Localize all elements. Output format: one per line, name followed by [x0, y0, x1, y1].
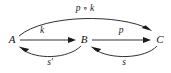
- edge-k: k: [20, 25, 76, 43]
- edge-s: s: [91, 46, 158, 67]
- node-C: C: [153, 33, 167, 47]
- edge-s-prime-arrowhead: [19, 47, 30, 53]
- edge-label-s: s: [122, 57, 126, 67]
- node-C-label: C: [156, 33, 164, 45]
- edge-label-p: p: [118, 25, 124, 35]
- node-A: A: [5, 33, 19, 47]
- commutative-diagram: p ∘ k k p s' s A: [0, 0, 171, 73]
- edge-s-prime-path: [22, 46, 81, 57]
- diagram-canvas: p ∘ k k p s' s A: [0, 0, 171, 73]
- edge-s-arrowhead: [91, 47, 102, 53]
- edge-label-s-prime: s': [47, 57, 54, 67]
- edge-k-arrowhead: [68, 37, 76, 43]
- edge-s-prime: s': [19, 46, 82, 67]
- edge-p-arrowhead: [143, 37, 151, 43]
- node-B-label: B: [81, 33, 88, 45]
- edge-label-k: k: [40, 25, 45, 35]
- node-B: B: [77, 33, 91, 47]
- edge-label-p-compose-k: p ∘ k: [75, 3, 95, 13]
- edge-s-path: [94, 46, 157, 57]
- node-A-label: A: [8, 33, 16, 45]
